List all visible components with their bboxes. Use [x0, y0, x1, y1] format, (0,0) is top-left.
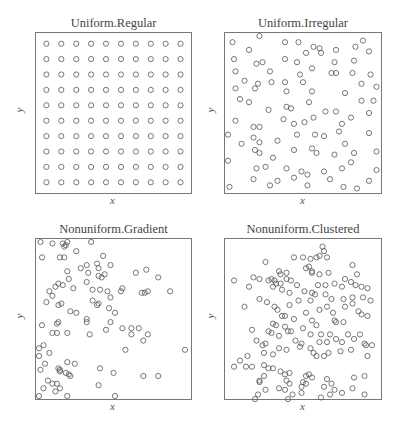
data-point — [254, 338, 259, 343]
data-point — [350, 386, 355, 391]
data-point — [333, 336, 338, 341]
data-point — [314, 255, 319, 260]
plot-area — [224, 238, 382, 400]
data-point — [302, 289, 307, 294]
data-point — [339, 340, 344, 345]
data-point — [291, 316, 296, 321]
data-point — [315, 283, 320, 288]
data-point — [263, 341, 268, 346]
data-point — [353, 283, 358, 288]
data-point — [287, 303, 292, 308]
data-point — [276, 386, 281, 391]
y-axis-label: y — [204, 314, 216, 319]
data-point — [270, 352, 275, 357]
data-point — [308, 332, 313, 337]
data-point — [362, 392, 367, 397]
data-point — [291, 255, 296, 260]
data-point — [365, 313, 370, 318]
data-point — [261, 373, 266, 378]
data-point — [321, 249, 326, 254]
data-point — [287, 381, 292, 386]
data-point — [339, 284, 344, 289]
data-point — [299, 341, 304, 346]
data-point — [269, 276, 274, 281]
data-point — [309, 318, 314, 323]
data-point — [276, 346, 281, 351]
data-point — [357, 332, 362, 337]
data-point — [287, 290, 292, 295]
data-point — [275, 307, 280, 312]
data-point — [350, 301, 355, 306]
data-point — [306, 264, 311, 269]
data-point — [269, 330, 274, 335]
data-point — [327, 332, 332, 337]
data-point — [279, 313, 284, 318]
figure-caption — [0, 414, 400, 426]
data-point — [261, 350, 266, 355]
data-point — [293, 338, 298, 343]
data-point — [279, 287, 284, 292]
data-point — [327, 392, 332, 397]
data-point — [294, 283, 299, 288]
data-point — [306, 372, 311, 377]
data-point — [231, 364, 236, 369]
data-point — [251, 275, 256, 280]
data-point — [363, 343, 368, 348]
data-point — [270, 321, 275, 326]
data-point — [342, 276, 347, 281]
data-point — [246, 284, 251, 289]
data-point — [242, 304, 247, 309]
data-point — [231, 278, 236, 283]
data-point — [299, 390, 304, 395]
data-point — [359, 284, 364, 289]
data-point — [264, 300, 269, 305]
data-point — [285, 329, 290, 334]
data-point — [351, 336, 356, 341]
data-point — [276, 333, 281, 338]
data-point — [317, 307, 322, 312]
data-point — [299, 384, 304, 389]
data-point — [314, 323, 319, 328]
data-point — [350, 295, 355, 300]
data-point — [297, 344, 302, 349]
data-point — [282, 387, 287, 392]
data-point — [341, 296, 346, 301]
data-point — [338, 349, 343, 354]
data-point — [332, 318, 337, 323]
data-point — [308, 298, 313, 303]
data-point — [288, 278, 293, 283]
data-point — [278, 272, 283, 277]
data-point — [308, 256, 313, 261]
data-point — [329, 296, 334, 301]
data-point — [282, 313, 287, 318]
data-point — [260, 343, 265, 348]
data-point — [288, 329, 293, 334]
data-point — [284, 270, 289, 275]
data-point — [270, 284, 275, 289]
data-point — [332, 387, 337, 392]
x-axis-label: x — [300, 400, 305, 412]
data-point — [245, 353, 250, 358]
data-point — [273, 323, 278, 328]
data-point — [296, 298, 301, 303]
data-point — [342, 304, 347, 309]
data-point — [317, 253, 322, 258]
data-point — [284, 347, 289, 352]
data-point — [303, 266, 308, 271]
panel-title: Nonuniform.Clustered — [224, 222, 382, 237]
data-point — [324, 377, 329, 382]
panel-nonuniform-clustered: Nonuniform.Clustered y x — [0, 0, 400, 426]
data-point — [360, 295, 365, 300]
data-point — [237, 358, 242, 363]
data-point — [350, 263, 355, 268]
data-point — [318, 395, 323, 400]
data-point — [333, 320, 338, 325]
data-point — [272, 304, 277, 309]
data-point — [284, 378, 289, 383]
data-point — [290, 392, 295, 397]
data-point — [351, 375, 356, 380]
data-point — [308, 346, 313, 351]
data-point — [324, 304, 329, 309]
data-point — [323, 283, 328, 288]
data-point — [359, 312, 364, 317]
